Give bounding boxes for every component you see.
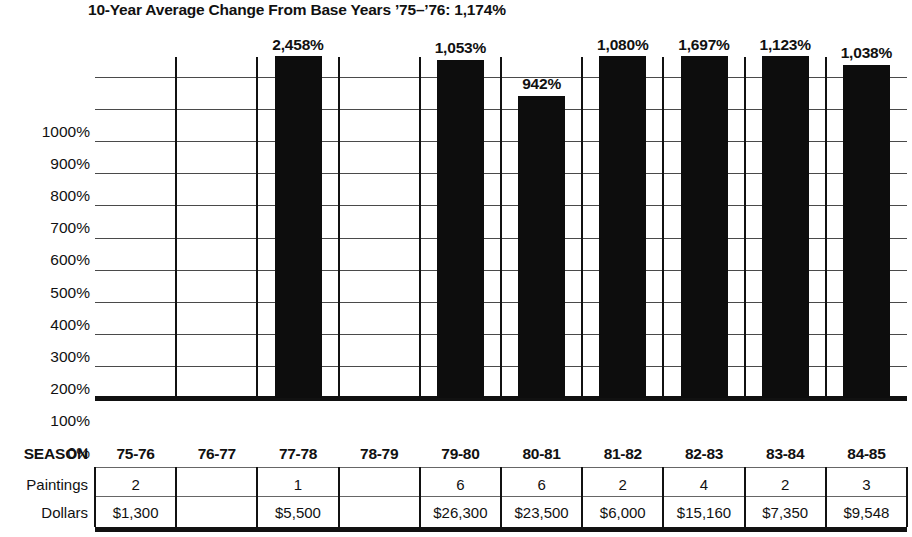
- y-axis-tick-800: 800%: [6, 187, 90, 205]
- table-column-divider: [419, 467, 421, 527]
- column-divider: [338, 57, 340, 400]
- column-divider: [744, 57, 746, 400]
- column-divider: [581, 57, 583, 400]
- y-axis-tick-500: 500%: [6, 284, 90, 302]
- table-cell-season-77-78: 77-78: [257, 445, 338, 463]
- table-cell-season-81-82: 81-82: [582, 445, 663, 463]
- column-divider: [175, 57, 177, 400]
- y-axis-tick-700: 700%: [6, 219, 90, 237]
- y-axis-tick-100: 100%: [6, 412, 90, 430]
- table-column-divider: [175, 467, 177, 527]
- table-cell-dollars-82-83: $15,160: [663, 504, 744, 521]
- y-axis-tick-300: 300%: [6, 348, 90, 366]
- column-divider: [256, 57, 258, 400]
- bar-82-83: [681, 56, 728, 398]
- bar-value-label-80-81: 942%: [487, 75, 597, 93]
- y-axis-tick-600: 600%: [6, 251, 90, 269]
- table-cell-season-79-80: 79-80: [420, 445, 501, 463]
- bar-81-82: [599, 56, 646, 398]
- column-divider: [825, 57, 827, 400]
- table-cell-dollars-81-82: $6,000: [582, 504, 663, 521]
- bar-79-80: [437, 60, 484, 398]
- table-cell-paintings-82-83: 4: [663, 476, 744, 493]
- bar-77-78: [275, 56, 322, 398]
- table-cell-dollars-77-78: $5,500: [257, 504, 338, 521]
- table-cell-dollars-80-81: $23,500: [501, 504, 582, 521]
- y-axis-tick-1000: 1000%: [6, 123, 90, 141]
- plot-area: [95, 57, 907, 398]
- table-cell-paintings-81-82: 2: [582, 476, 663, 493]
- table-cell-season-83-84: 83-84: [745, 445, 826, 463]
- table-row-header-dollars: Dollars: [0, 504, 88, 521]
- bar-83-84: [762, 56, 809, 398]
- table-cell-season-84-85: 84-85: [826, 445, 907, 463]
- table-cell-dollars-84-85: $9,548: [826, 504, 907, 521]
- table-cell-season-76-77: 76-77: [176, 445, 257, 463]
- chart-title: 10-Year Average Change From Base Years ’…: [88, 1, 506, 19]
- bar-value-label-77-78: 2,458%: [243, 36, 353, 54]
- table-column-divider: [744, 467, 746, 527]
- table-column-divider: [256, 467, 258, 527]
- column-divider: [662, 57, 664, 400]
- table-rule-2: [95, 527, 907, 532]
- y-axis-tick-400: 400%: [6, 316, 90, 334]
- table-cell-paintings-84-85: 3: [826, 476, 907, 493]
- bar-84-85: [843, 65, 890, 398]
- table-cell-paintings-83-84: 2: [745, 476, 826, 493]
- data-table: SEASON75-7676-7777-7878-7979-8080-8181-8…: [0, 441, 912, 537]
- y-axis-tick-900: 900%: [6, 155, 90, 173]
- table-cell-season-75-76: 75-76: [95, 445, 176, 463]
- table-cell-paintings-80-81: 6: [501, 476, 582, 493]
- y-axis-labels: 1000%900%800%700%600%500%400%300%200%100…: [0, 57, 90, 398]
- table-cell-paintings-75-76: 2: [95, 476, 176, 493]
- table-column-divider: [825, 467, 827, 527]
- table-column-divider: [94, 467, 96, 527]
- column-divider: [500, 57, 502, 400]
- table-column-divider: [906, 467, 908, 527]
- y-axis-tick-200: 200%: [6, 380, 90, 398]
- table-cell-season-78-79: 78-79: [339, 445, 420, 463]
- table-cell-dollars-79-80: $26,300: [420, 504, 501, 521]
- table-cell-paintings-77-78: 1: [257, 476, 338, 493]
- table-cell-dollars-83-84: $7,350: [745, 504, 826, 521]
- chart-container: 10-Year Average Change From Base Years ’…: [0, 0, 912, 537]
- table-column-divider: [500, 467, 502, 527]
- bar-value-label-84-85: 1,038%: [811, 44, 912, 62]
- table-cell-season-80-81: 80-81: [501, 445, 582, 463]
- table-cell-dollars-75-76: $1,300: [95, 504, 176, 521]
- table-column-divider: [338, 467, 340, 527]
- table-column-divider: [662, 467, 664, 527]
- bar-value-label-79-80: 1,053%: [405, 39, 515, 57]
- table-row-header-paintings: Paintings: [0, 476, 88, 493]
- table-column-divider: [581, 467, 583, 527]
- table-cell-season-82-83: 82-83: [663, 445, 744, 463]
- table-cell-paintings-79-80: 6: [420, 476, 501, 493]
- column-divider: [419, 57, 421, 400]
- bar-80-81: [518, 96, 565, 398]
- table-row-header-season: SEASON: [0, 445, 88, 463]
